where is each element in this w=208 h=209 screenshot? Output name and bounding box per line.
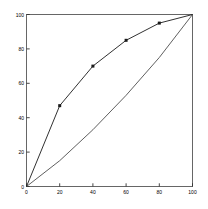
y-tick-label: 100 xyxy=(16,12,24,17)
data-point-marker xyxy=(91,65,94,68)
x-tick-label: 80 xyxy=(157,190,163,195)
y-tick-label: 0 xyxy=(21,184,24,189)
y-tick-label: 60 xyxy=(18,81,24,86)
y-tick-label: 80 xyxy=(18,46,24,51)
chart-figure: 020406080100 020406080100 xyxy=(0,0,208,209)
data-point-marker xyxy=(125,39,128,42)
x-tick-label: 20 xyxy=(57,190,63,195)
x-tick-label: 40 xyxy=(90,190,96,195)
data-point-marker xyxy=(58,104,61,107)
y-tick-label: 40 xyxy=(18,115,24,120)
x-tick-label: 60 xyxy=(123,190,129,195)
y-tick-label: 20 xyxy=(18,150,24,155)
plot-canvas xyxy=(0,0,208,209)
plot-frame xyxy=(27,15,193,187)
data-point-marker xyxy=(158,22,161,25)
x-tick-label: 100 xyxy=(188,190,196,195)
x-tick-label: 0 xyxy=(25,190,28,195)
